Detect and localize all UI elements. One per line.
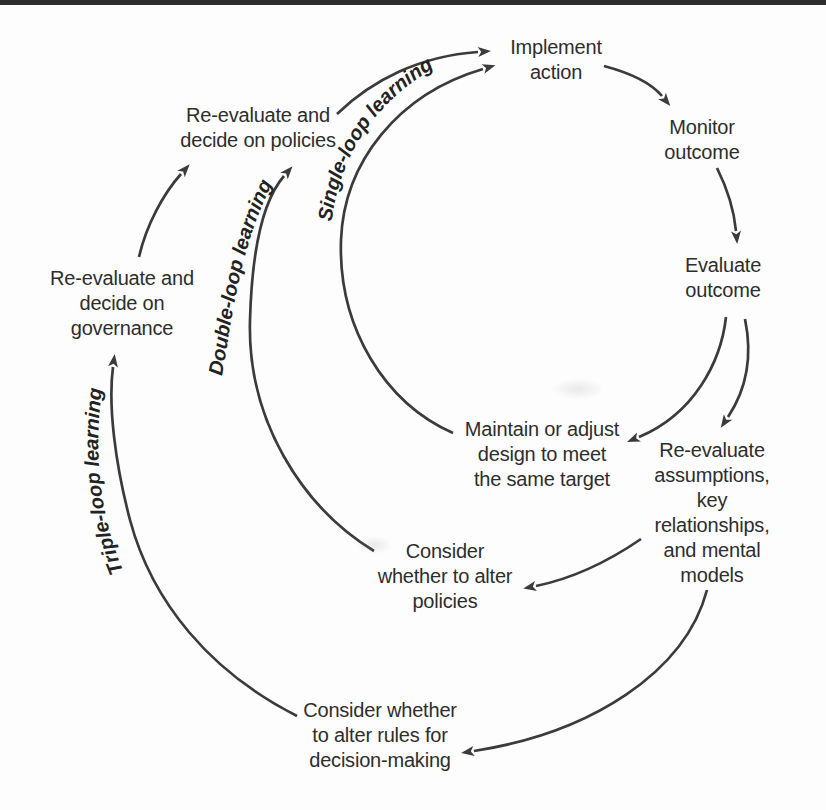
arrow-evaluate-to-assumptions: [728, 319, 748, 417]
node-maintain-design: Maintain or adjust design to meet the sa…: [465, 417, 619, 492]
node-reevaluate-governance: Re-evaluate and decide on governance: [50, 266, 194, 341]
node-consider-alter-rules: Consider whether to alter rules for deci…: [303, 698, 457, 773]
arrow-assumptions-to-consider-policies: [536, 539, 641, 586]
learning-loops-diagram: Single-loop learning Double-loop learnin…: [0, 0, 826, 810]
node-monitor-outcome: Monitor outcome: [664, 115, 739, 165]
node-reevaluate-assumptions: Re-evaluate assumptions, key relationshi…: [654, 438, 769, 588]
arrow-double-loop-return: [250, 176, 374, 551]
node-consider-alter-policies: Consider whether to alter policies: [378, 539, 513, 614]
node-implement-action: Implement action: [510, 35, 602, 85]
double-loop-label-text: Double-loop learning: [204, 176, 276, 377]
arrow-assumptions-to-consider-rules: [474, 590, 707, 751]
arrow-monitor-to-evaluate: [717, 168, 736, 231]
arrow-implement-to-monitor: [604, 66, 662, 96]
node-reevaluate-policies: Re-evaluate and decide on policies: [180, 103, 335, 153]
double-loop-label: Double-loop learning: [204, 176, 276, 377]
arrow-triple-loop-return: [111, 367, 297, 716]
node-evaluate-outcome: Evaluate outcome: [685, 253, 761, 303]
arrow-governance-to-policies: [139, 174, 181, 257]
arrow-evaluate-to-maintain: [639, 317, 726, 437]
scan-smudge: [552, 378, 604, 400]
scan-smudge: [355, 536, 393, 554]
